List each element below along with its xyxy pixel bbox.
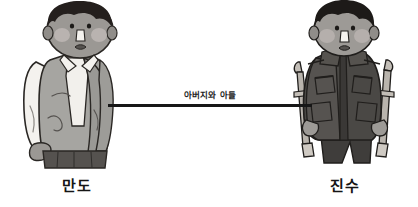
character-name-mando: 만도 <box>17 174 137 195</box>
mando-body-group <box>24 1 117 168</box>
jinsu-nose <box>340 31 349 42</box>
mando-eye-left <box>70 23 74 28</box>
jinsu-jacket-placket <box>340 50 348 140</box>
character-figure-jinsu <box>280 0 410 175</box>
relationship-label: 아버지와 아들 <box>139 88 281 100</box>
mando-eye-right <box>87 23 91 28</box>
jinsu-eye-right <box>351 25 355 30</box>
mando-cheek-left <box>54 28 70 42</box>
jinsu-ear-right <box>369 26 379 40</box>
jinsu-ear-left <box>309 26 319 40</box>
relationship-line <box>108 104 312 107</box>
mando-mouth <box>75 45 86 50</box>
character-name-jinsu: 진수 <box>285 174 405 195</box>
mando-ear-right <box>107 26 117 40</box>
mando-ear-left <box>43 26 53 40</box>
mando-cheek-right <box>91 28 107 42</box>
mando-trousers <box>43 151 107 168</box>
diagram-canvas: 아버지와 아들 만도 진수 <box>0 0 418 207</box>
jinsu-mouth <box>339 46 350 51</box>
character-figure-mando <box>12 0 142 175</box>
jinsu-cheek-right <box>354 29 370 43</box>
jinsu-cheek-left <box>319 29 335 43</box>
mando-nose <box>76 30 85 41</box>
jinsu-body-group <box>294 0 394 163</box>
jinsu-eye-left <box>335 25 339 30</box>
